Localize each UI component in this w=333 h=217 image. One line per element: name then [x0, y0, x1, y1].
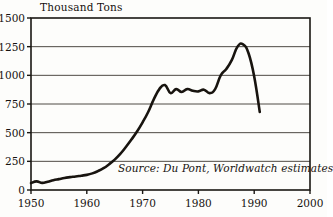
source-annotation: Source: Du Pont, Worldwatch estimates: [118, 162, 333, 174]
y-tick-label: 250: [5, 155, 25, 167]
y-tick-label: 500: [5, 127, 25, 139]
y-axis-title: Thousand Tons: [40, 1, 123, 13]
y-tick-label: 1000: [0, 69, 25, 81]
x-tick-label: 1960: [73, 197, 100, 209]
y-tick-label: 1500: [0, 12, 25, 24]
gridlines: [31, 47, 310, 162]
y-tick-label: 750: [5, 98, 25, 110]
x-tick-label: 1980: [185, 197, 212, 209]
x-tick-label: 1950: [18, 197, 45, 209]
y-tick-label: 1250: [0, 41, 25, 53]
x-tick-label: 2000: [297, 197, 324, 209]
x-tick-label: 1990: [241, 197, 268, 209]
x-tick-label: 1970: [129, 197, 156, 209]
y-tick-label: 0: [18, 184, 25, 196]
